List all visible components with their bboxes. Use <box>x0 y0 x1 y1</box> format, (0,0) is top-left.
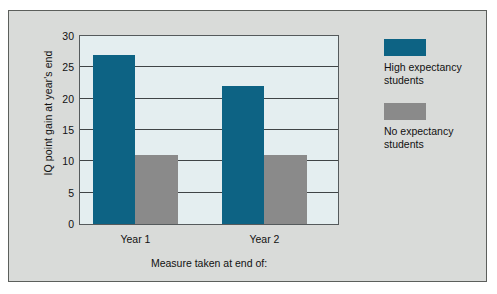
y-tick-label: 10 <box>62 155 74 167</box>
chart-legend: High expectancy studentsNo expectancy st… <box>384 39 480 167</box>
legend-label: High expectancy students <box>384 61 480 86</box>
y-tick-label: 30 <box>62 30 74 42</box>
bar-year-1-series-0 <box>93 55 136 224</box>
x-tick-label: Year 2 <box>249 233 279 245</box>
bar-year-1-series-1 <box>135 155 178 224</box>
chart-figure: IQ point gain at year's end 051015202530… <box>8 10 487 282</box>
bar-year-2-series-0 <box>222 86 265 224</box>
legend-item-0[interactable]: High expectancy students <box>384 39 480 86</box>
y-tick-label: 20 <box>62 93 74 105</box>
x-tick-label: Year 1 <box>120 233 150 245</box>
y-axis-title: IQ point gain at year's end <box>42 18 54 208</box>
x-axis-title: Measure taken at end of: <box>79 257 339 269</box>
y-tick-label: 15 <box>62 124 74 136</box>
plot-area: 051015202530 Year 1Year 2 <box>79 35 339 225</box>
bar-year-2-series-1 <box>264 155 307 224</box>
y-tick-label: 0 <box>68 218 74 230</box>
legend-swatch <box>384 39 426 56</box>
legend-item-1[interactable]: No expectancy students <box>384 103 480 150</box>
y-tick-label: 5 <box>68 187 74 199</box>
y-tick-label: 25 <box>62 61 74 73</box>
legend-label: No expectancy students <box>384 125 480 150</box>
legend-swatch <box>384 103 426 120</box>
